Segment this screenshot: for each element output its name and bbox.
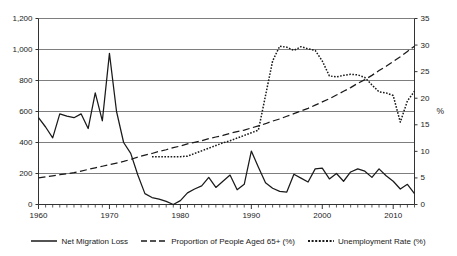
legend-label: Net Migration Loss	[61, 237, 128, 246]
chart-legend: Net Migration LossProportion of People A…	[0, 231, 457, 251]
y-axis-left-tick-label: 200	[0, 169, 33, 178]
x-axis-tick-label: 2000	[302, 211, 342, 220]
y-axis-right-tick-label: 30	[421, 41, 430, 50]
legend-swatch-solid	[31, 237, 57, 245]
y-axis-left-tick-label: 600	[0, 107, 33, 116]
x-axis-tick-label: 1980	[160, 211, 200, 220]
series-line-3	[152, 46, 414, 157]
x-axis-ticks	[39, 205, 415, 210]
y-axis-left-tick-label: 1,200	[0, 14, 33, 23]
y-axis-left-tick-label: 400	[0, 138, 33, 147]
y-axis-left-tick-label: 800	[0, 76, 33, 85]
y-axis-right-unit-label: %	[437, 106, 445, 116]
y-axis-right-tick-label: 20	[421, 94, 430, 103]
data-series-group	[39, 46, 415, 204]
y-axis-right-tick-label: 0	[421, 200, 425, 209]
y-axis-right-tick-label: 10	[421, 147, 430, 156]
legend-item[interactable]: Net Migration Loss	[31, 237, 128, 246]
y-axis-right-tick-label: 15	[421, 120, 430, 129]
legend-label: Unemployment Rate (%)	[338, 237, 426, 246]
legend-label: Proportion of People Aged 65+ (%)	[171, 237, 295, 246]
x-axis-tick-label: 1960	[19, 211, 59, 220]
y-axis-left-tick-label: 1,000	[0, 45, 33, 54]
y-axis-right-tick-label: 25	[421, 67, 430, 76]
y-axis-right-tick-label: 5	[421, 173, 425, 182]
chart-container: 02004006008001,0001,200 05101520253035 1…	[0, 0, 457, 256]
x-axis-tick-label: 1990	[231, 211, 271, 220]
legend-swatch-dotted	[308, 237, 334, 245]
series-line-1	[39, 53, 415, 204]
y-axis-right-tick-label: 35	[421, 14, 430, 23]
y-axis-left-tick-label: 0	[0, 200, 33, 209]
legend-item[interactable]: Proportion of People Aged 65+ (%)	[141, 237, 295, 246]
legend-swatch-dashed	[141, 237, 167, 245]
series-line-2	[39, 46, 415, 178]
x-axis-tick-label: 2010	[373, 211, 413, 220]
legend-item[interactable]: Unemployment Rate (%)	[308, 237, 426, 246]
x-axis-tick-label: 1970	[89, 211, 129, 220]
